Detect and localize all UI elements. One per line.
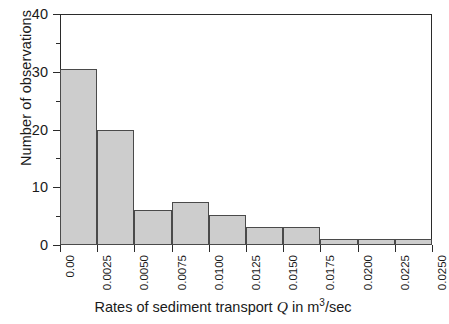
x-axis-tick	[172, 245, 173, 252]
x-axis-tick-label: 0.0225	[400, 255, 412, 290]
histogram-bar	[60, 69, 97, 245]
x-axis-tick	[97, 245, 98, 252]
y-axis-tick-label: 40	[12, 7, 48, 22]
y-axis-tick	[53, 72, 60, 73]
y-axis-tick-label: 10	[12, 180, 48, 195]
y-axis-tick-label: 20	[12, 123, 48, 138]
histogram-bar	[134, 210, 171, 245]
x-axis-variable-q: Q	[277, 298, 288, 315]
x-axis-tick-label: 0.0125	[251, 255, 263, 290]
x-axis-tick-label: 0.0175	[325, 255, 337, 290]
x-axis-tick	[60, 245, 61, 252]
histogram-bar	[97, 130, 134, 246]
histogram-bar	[358, 239, 395, 245]
x-axis-tick-label: 0.0200	[363, 255, 375, 290]
x-axis-tick-label: 0.0250	[437, 255, 449, 290]
y-axis-tick-label: 30	[12, 65, 48, 80]
histogram-bar	[209, 215, 246, 245]
x-axis-title-tail: /sec	[325, 299, 352, 315]
histogram-bar	[172, 202, 209, 245]
histogram-bar	[246, 227, 283, 245]
x-axis-tick	[134, 245, 135, 252]
x-axis-tick-label: 0.0150	[288, 255, 300, 290]
x-axis-tick-label: 0.00	[65, 255, 77, 277]
y-axis-tick	[53, 187, 60, 188]
plot-area	[60, 14, 432, 245]
x-axis-title-units: in m	[288, 299, 319, 315]
x-axis-tick	[358, 245, 359, 252]
x-axis-tick	[320, 245, 321, 252]
x-axis-tick	[432, 245, 433, 252]
x-axis-title: Rates of sediment transport Q in m3/sec	[0, 298, 446, 316]
x-axis-tick-label: 0.0100	[214, 255, 226, 290]
x-axis-tick-label: 0.0025	[102, 255, 114, 290]
y-axis-tick	[53, 245, 60, 246]
x-axis-tick-label: 0.0050	[139, 255, 151, 290]
y-axis-tick	[53, 130, 60, 131]
y-axis-tick-label: 0	[12, 238, 48, 253]
x-axis-tick	[283, 245, 284, 252]
x-axis-tick	[246, 245, 247, 252]
histogram-bar	[320, 239, 357, 245]
histogram-bar	[395, 239, 432, 245]
histogram-bar	[283, 227, 320, 245]
y-axis-tick	[53, 14, 60, 15]
y-axis-title: Number of observations	[18, 0, 34, 198]
x-axis-tick-label: 0.0075	[177, 255, 189, 290]
x-axis-tick	[395, 245, 396, 252]
x-axis-title-before: Rates of sediment transport	[95, 299, 277, 315]
x-axis-tick	[209, 245, 210, 252]
